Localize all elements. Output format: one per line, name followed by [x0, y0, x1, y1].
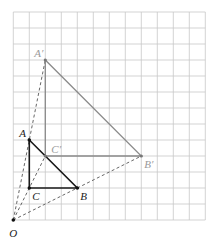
label-a-prime: A′ [33, 47, 44, 59]
vertex-dot [44, 58, 47, 61]
vertex-dot [12, 218, 16, 222]
label-b-prime: B′ [144, 158, 154, 170]
enlargement-diagram: O A B C A′ B′ C′ [0, 0, 215, 247]
vertex-dot [140, 154, 143, 157]
label-c-prime: C′ [51, 143, 61, 155]
label-b: B [80, 190, 87, 202]
vertex-dot [28, 138, 32, 142]
vertex-dot [28, 186, 32, 190]
label-o: O [9, 227, 17, 239]
vertex-dot [76, 186, 80, 190]
label-c: C [32, 190, 40, 202]
label-a: A [18, 127, 26, 139]
vertex-dot [44, 154, 47, 157]
